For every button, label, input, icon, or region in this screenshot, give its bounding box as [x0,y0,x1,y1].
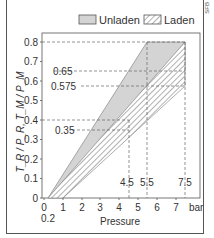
annotation-0575: 0.575 [51,81,76,92]
ytick: 0.4 [24,115,38,126]
annotation-035: 0.35 [55,125,75,136]
legend-swatch-laden [144,15,161,24]
legend-swatch-unladen [79,15,96,24]
y-axis-label: T_R / P_R, T_M / P_M [15,71,26,173]
xtick: 3 [97,202,103,213]
xtick: 2 [79,202,85,213]
xtick: 0 [41,202,47,213]
xtick: 4 [116,202,122,213]
annotation-55: 5.5 [140,177,154,188]
xtick: 5 [135,202,141,213]
legend-label-unladen: Unladen [99,14,140,26]
xtick: 1 [60,202,66,213]
ytick: 0.2 [24,154,38,165]
ytick: 0 [32,193,38,204]
annotation-75: 7.5 [178,177,192,188]
x-unit: bar [189,202,204,213]
xtick: 6 [154,202,160,213]
chart: Unladen Laden 0.65 0.575 0.35 4.5 5.5 7.… [0,0,214,238]
ytick: 0.3 [24,134,38,145]
ytick: 0.1 [24,173,38,184]
ytick: 0.8 [24,37,38,48]
xtick-extra: 0.2 [41,213,55,224]
ytick: 0.7 [24,56,38,67]
annotation-45: 4.5 [120,177,134,188]
ytick: 0.6 [24,76,38,87]
ytick: 0.5 [24,95,38,106]
xtick: 7 [173,202,179,213]
annotation-065: 0.65 [53,66,73,77]
legend-label-laden: Laden [164,14,195,26]
x-axis-label: Pressure [100,216,140,227]
